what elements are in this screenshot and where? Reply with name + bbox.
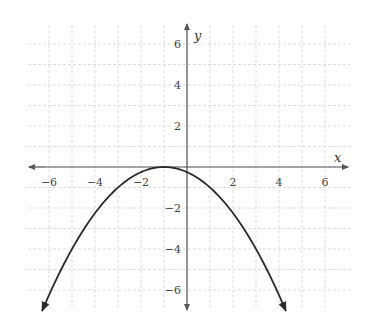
y-tick-label: 2 [174,120,181,133]
x-tick-label: −2 [133,176,149,189]
x-tick-label: −4 [87,176,103,189]
y-tick-label: 6 [174,38,181,51]
x-tick-label: 6 [322,176,329,189]
y-axis-label: y [193,28,202,43]
axes [29,24,348,310]
coordinate-plane: −6−4−2246642−2−4−6 x y [0,0,368,333]
x-tick-label: −6 [41,176,57,189]
y-tick-label: −2 [165,202,181,215]
x-axis-label: x [334,150,342,165]
x-tick-label: 2 [230,176,237,189]
y-tick-label: −4 [165,243,181,256]
y-tick-label: −6 [165,284,181,297]
parabola-right-branch [164,167,286,311]
y-tick-label: 4 [174,79,181,92]
x-tick-label: 4 [276,176,283,189]
